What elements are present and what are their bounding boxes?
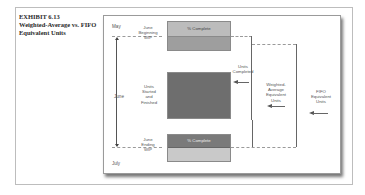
ending-wip-box: % Complete — [167, 134, 231, 162]
exhibit-caption: EXHIBIT 6.13 Weighted-Average vs. FIFO E… — [19, 13, 109, 37]
started-finished-box — [167, 72, 231, 119]
diagram-panel: May June July June Beginning WIP Units S… — [103, 15, 341, 174]
period-line-may-june-mid — [231, 36, 252, 37]
exhibit-title-line2: Equivalent Units — [19, 29, 109, 37]
june-span-arrow-down-icon — [115, 144, 119, 147]
exhibit-number: EXHIBIT 6.13 — [19, 13, 109, 21]
period-line-june-july-right — [231, 147, 296, 148]
month-may: May — [112, 24, 121, 29]
label-fifo-equivalent-units: FIFO Equivalent Units — [304, 89, 338, 105]
exhibit-title-line1: Weighted-Average vs. FIFO — [19, 21, 109, 29]
june-span-arrow-up-icon — [115, 37, 119, 40]
weighted-average-bracket-right — [296, 44, 297, 147]
label-june-beginning-wip: June Beginning WIP — [134, 25, 162, 41]
beginning-wip-percent-complete: % Complete — [168, 22, 230, 37]
label-units-completed: Units Completed — [226, 64, 260, 74]
beginning-wip-box: % Complete — [167, 21, 231, 51]
units-completed-bracket — [251, 36, 252, 120]
period-line-wa-top — [252, 44, 296, 45]
month-july: July — [112, 161, 120, 166]
weighted-average-bracket-left — [252, 120, 253, 147]
june-span-line — [116, 39, 117, 146]
weighted-average-arrow-icon — [267, 105, 285, 108]
label-weighted-average-equivalent-units: Weighted- Average Equivalent Units — [258, 82, 294, 103]
fifo-arrow-icon — [309, 112, 328, 115]
units-completed-arrow-icon — [233, 81, 249, 84]
ending-wip-percent-complete: % Complete — [168, 135, 230, 148]
label-june-ending-wip: June Ending WIP — [134, 137, 162, 153]
label-units-started-finished: Units Started and Finished — [136, 84, 162, 105]
